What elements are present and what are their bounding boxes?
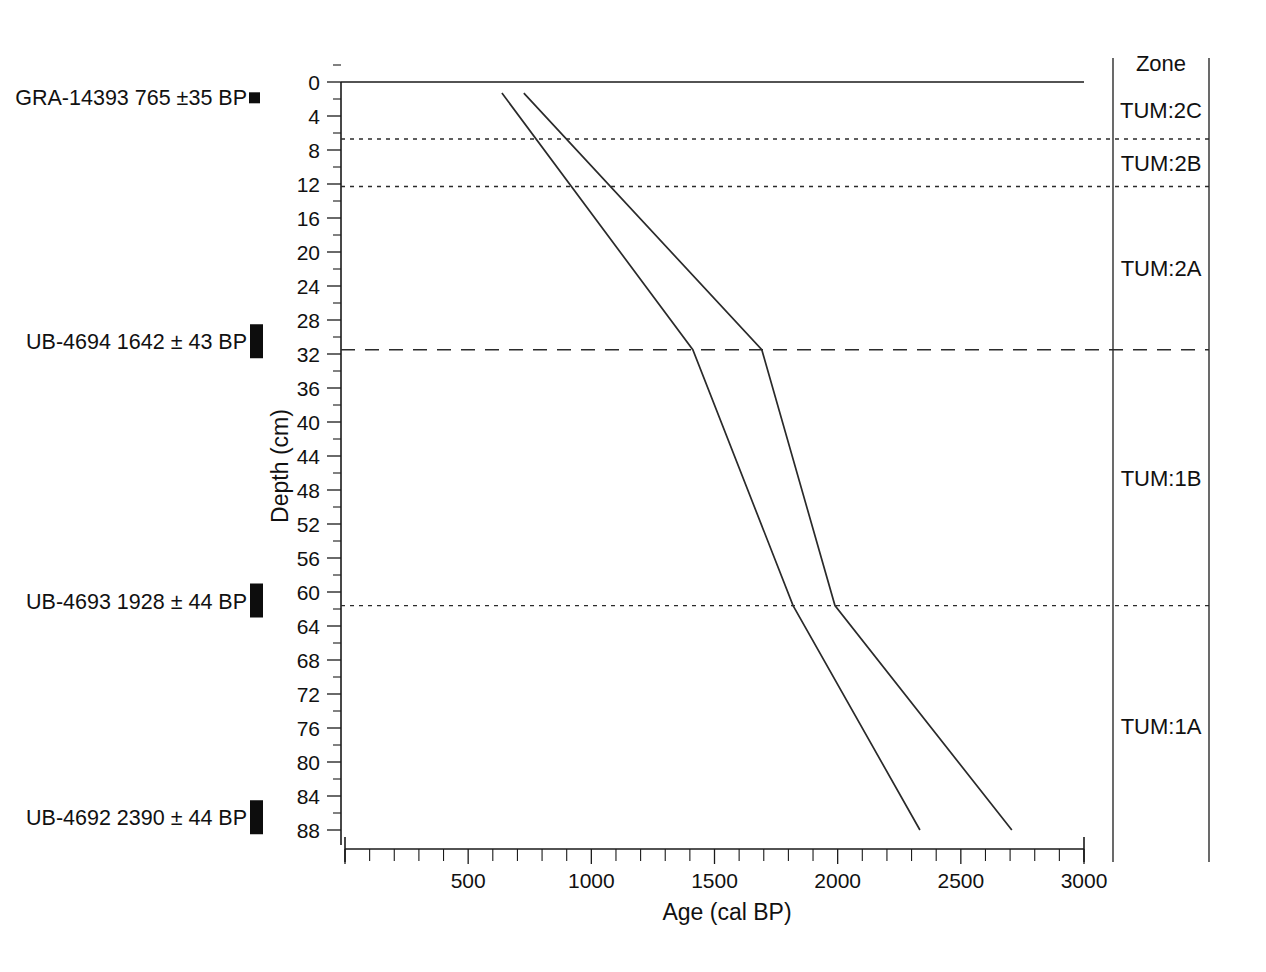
depth-tick-label: 12 xyxy=(297,173,320,196)
zone-label: TUM:2B xyxy=(1121,151,1202,176)
depth-tick-label: 76 xyxy=(297,717,320,740)
date-marker-bar xyxy=(250,800,263,834)
radiocarbon-date-label: UB-4692 2390 ± 44 BP xyxy=(26,806,247,830)
depth-axis: 0481216202428323640444852566064687276808… xyxy=(297,65,341,842)
plot-frame xyxy=(341,82,1084,862)
depth-tick-label: 0 xyxy=(308,71,320,94)
radiocarbon-date-label: UB-4694 1642 ± 43 BP xyxy=(26,330,247,354)
age-tick-label: 3000 xyxy=(1061,869,1108,892)
age-depth-model-lines xyxy=(502,93,1012,830)
radiocarbon-date-label: UB-4693 1928 ± 44 BP xyxy=(26,590,247,614)
x-axis-title: Age (cal BP) xyxy=(662,899,791,925)
depth-tick-label: 88 xyxy=(297,819,320,842)
date-marker-square xyxy=(249,92,260,103)
series-lower-age-bound xyxy=(502,93,920,830)
depth-tick-label: 52 xyxy=(297,513,320,536)
zone-boundary-lines xyxy=(341,139,1209,606)
depth-tick-label: 28 xyxy=(297,309,320,332)
age-depth-chart: 0481216202428323640444852566064687276808… xyxy=(0,0,1266,972)
age-tick-label: 1500 xyxy=(691,869,738,892)
depth-tick-label: 8 xyxy=(308,139,320,162)
date-marker-bar xyxy=(250,324,263,358)
depth-tick-label: 64 xyxy=(297,615,321,638)
zone-label: TUM:1A xyxy=(1121,714,1202,739)
radiocarbon-date-annotations: GRA-14393 765 ±35 BPUB-4694 1642 ± 43 BP… xyxy=(15,86,263,834)
depth-tick-label: 48 xyxy=(297,479,320,502)
depth-tick-label: 56 xyxy=(297,547,320,570)
radiocarbon-date-label: GRA-14393 765 ±35 BP xyxy=(15,86,247,110)
depth-tick-label: 24 xyxy=(297,275,321,298)
chart-canvas: 0481216202428323640444852566064687276808… xyxy=(0,0,1266,972)
depth-tick-label: 4 xyxy=(308,105,320,128)
age-tick-label: 1000 xyxy=(568,869,615,892)
depth-tick-label: 84 xyxy=(297,785,321,808)
depth-tick-label: 80 xyxy=(297,751,320,774)
series-upper-age-bound xyxy=(524,93,1012,830)
depth-tick-label: 68 xyxy=(297,649,320,672)
radiocarbon-date-annotation: GRA-14393 765 ±35 BP xyxy=(15,86,260,110)
radiocarbon-date-annotation: UB-4693 1928 ± 44 BP xyxy=(26,584,263,618)
zone-label: TUM:1B xyxy=(1121,466,1202,491)
age-tick-label: 500 xyxy=(451,869,486,892)
y-axis-title: Depth (cm) xyxy=(267,409,293,523)
zone-labels: TUM:2CTUM:2BTUM:2ATUM:1BTUM:1A xyxy=(1120,98,1202,739)
age-axis-labels: 50010001500200025003000 xyxy=(451,869,1108,892)
depth-tick-label: 16 xyxy=(297,207,320,230)
zone-label: TUM:2A xyxy=(1121,256,1202,281)
depth-tick-label: 40 xyxy=(297,411,320,434)
age-axis-minor-ticks xyxy=(345,849,1084,864)
depth-tick-label: 36 xyxy=(297,377,320,400)
radiocarbon-date-annotation: UB-4694 1642 ± 43 BP xyxy=(26,324,263,358)
age-tick-label: 2000 xyxy=(814,869,861,892)
depth-tick-label: 20 xyxy=(297,241,320,264)
date-marker-bar xyxy=(250,584,263,618)
depth-tick-label: 60 xyxy=(297,581,320,604)
zone-label: TUM:2C xyxy=(1120,98,1202,123)
radiocarbon-date-annotation: UB-4692 2390 ± 44 BP xyxy=(26,800,263,834)
age-tick-label: 2500 xyxy=(937,869,984,892)
depth-tick-label: 32 xyxy=(297,343,320,366)
zone-panel-header: Zone xyxy=(1136,51,1186,76)
depth-tick-label: 44 xyxy=(297,445,321,468)
depth-tick-label: 72 xyxy=(297,683,320,706)
